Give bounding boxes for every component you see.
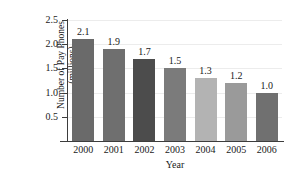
x-tick-label: 2000 xyxy=(66,144,100,155)
x-tick-label: 2005 xyxy=(219,144,253,155)
bar-value-label: 1.0 xyxy=(250,81,284,91)
x-axis-title: Year xyxy=(68,159,282,170)
y-tick-label: 2.0 xyxy=(26,39,58,49)
bar-value-label: 1.2 xyxy=(219,71,253,81)
bar-value-label: 1.7 xyxy=(127,47,161,57)
bar[interactable] xyxy=(195,78,217,141)
bar[interactable] xyxy=(72,39,94,141)
x-tick-label: 2004 xyxy=(189,144,223,155)
y-tick-label: 1.5 xyxy=(26,63,58,73)
y-tick-mark xyxy=(62,68,68,69)
bar-value-label: 1.3 xyxy=(189,66,223,76)
x-tick-label: 2003 xyxy=(158,144,192,155)
y-tick-label: 2.5 xyxy=(26,15,58,25)
y-tick-label: 1.0 xyxy=(26,88,58,98)
bar-value-label: 1.5 xyxy=(158,56,192,66)
bar[interactable] xyxy=(225,83,247,141)
bar-value-label: 2.1 xyxy=(66,27,100,37)
x-tick-label: 2006 xyxy=(250,144,284,155)
y-tick-mark xyxy=(62,117,68,118)
y-tick-mark xyxy=(62,20,68,21)
bar[interactable] xyxy=(256,93,278,141)
gridline xyxy=(68,20,282,21)
y-tick-label: 0.5 xyxy=(26,112,58,122)
y-tick-mark xyxy=(62,44,68,45)
x-axis-line xyxy=(60,141,284,142)
y-tick-mark xyxy=(62,93,68,94)
bar-chart-figure: Number of Pay Phones (millions) Year 0.5… xyxy=(0,0,290,180)
x-tick-label: 2002 xyxy=(127,144,161,155)
x-tick-label: 2001 xyxy=(97,144,131,155)
y-axis-line xyxy=(67,19,68,142)
bar-value-label: 1.9 xyxy=(97,37,131,47)
bar[interactable] xyxy=(103,49,125,141)
bar[interactable] xyxy=(164,68,186,141)
bar[interactable] xyxy=(133,59,155,141)
